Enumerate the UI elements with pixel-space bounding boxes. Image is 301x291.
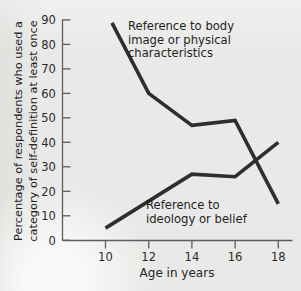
y-axis-ticks <box>63 20 71 240</box>
chart-figure: 90 80 70 60 50 40 30 20 10 0 10 12 14 16… <box>0 0 301 291</box>
annotation-body-image-line-3: characteristics <box>128 47 258 61</box>
y-axis-title: Percentage of respondents who used a cat… <box>11 15 45 247</box>
annotation-ideology-line-1: Reference to <box>146 199 264 213</box>
annotation-body-image: Reference to body image or physical char… <box>128 20 258 61</box>
annotation-ideology-line-2: ideology or belief <box>146 213 264 227</box>
x-axis-ticks <box>106 241 279 249</box>
x-tick-label-14: 14 <box>179 250 205 264</box>
annotation-ideology: Reference to ideology or belief <box>146 199 264 226</box>
x-tick-label-16: 16 <box>222 250 248 264</box>
y-axis-title-line-2: category of self-definition at least onc… <box>26 15 41 247</box>
x-tick-label-10: 10 <box>93 250 119 264</box>
x-tick-label-18: 18 <box>265 250 291 264</box>
x-tick-label-12: 12 <box>136 250 162 264</box>
annotation-body-image-line-1: Reference to body <box>128 20 258 34</box>
annotation-body-image-line-2: image or physical <box>128 34 258 48</box>
y-axis-title-line-1: Percentage of respondents who used a <box>11 15 26 247</box>
x-axis-title: Age in years <box>62 266 292 280</box>
